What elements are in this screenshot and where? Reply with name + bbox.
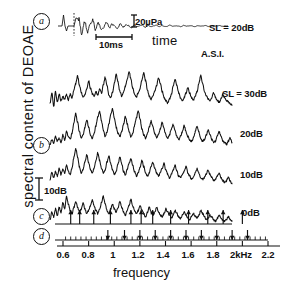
spectral-trace-10db <box>50 149 232 184</box>
time-scale-bar <box>96 34 132 40</box>
db-scale-bar <box>35 178 43 200</box>
spectral-trace-20db <box>50 109 232 145</box>
amplitude-scale-bar <box>131 15 137 27</box>
x-axis <box>57 241 280 246</box>
plot-canvas <box>0 0 289 288</box>
inset-time-waveform <box>58 13 228 40</box>
figure-deoae-spectra: spectral content of DEOAE a b c d 20µPa … <box>0 0 289 288</box>
panel-d-arrows <box>55 230 268 240</box>
spectral-trace-30db <box>50 72 232 107</box>
